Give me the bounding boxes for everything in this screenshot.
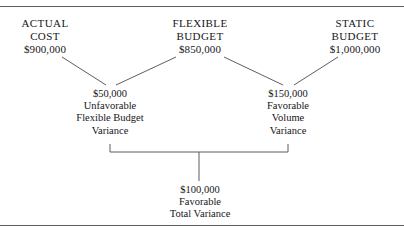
total-variance-bracket — [110, 144, 288, 152]
column-static-budget-amount: $1,000,000 — [330, 43, 381, 56]
variance-flexible-budget-direction: Unfavorable — [76, 100, 143, 112]
column-flexible-budget-title-line1: FLEXIBLE — [172, 17, 227, 30]
connector-static-budget-to-volume-variance — [294, 57, 338, 85]
variance-volume-amount: $150,000 — [267, 88, 309, 100]
variance-flexible-budget-amount: $50,000 — [76, 88, 143, 100]
variance-volume: $150,000 Favorable Volume Variance — [267, 88, 309, 137]
column-static-budget: STATIC BUDGET $1,000,000 — [330, 17, 381, 55]
column-static-budget-title-line2: BUDGET — [330, 30, 381, 43]
column-flexible-budget-amount: $850,000 — [172, 43, 227, 56]
variance-total-name: Total Variance — [170, 208, 231, 220]
top-horizontal-rule — [0, 6, 404, 7]
column-actual-cost-title-line2: COST — [21, 30, 68, 43]
connector-flexible-budget-to-flexible-budget-variance — [116, 57, 176, 85]
variance-total-amount: $100,000 — [170, 184, 231, 196]
variance-volume-direction: Favorable — [267, 100, 309, 112]
variance-flexible-budget-name-line1: Flexible Budget — [76, 112, 143, 124]
column-flexible-budget: FLEXIBLE BUDGET $850,000 — [172, 17, 227, 55]
variance-flexible-budget: $50,000 Unfavorable Flexible Budget Vari… — [76, 88, 143, 137]
variance-analysis-diagram: ACTUAL COST $900,000 FLEXIBLE BUDGET $85… — [0, 0, 404, 240]
column-actual-cost-amount: $900,000 — [21, 43, 68, 56]
column-actual-cost-title-line1: ACTUAL — [21, 17, 68, 30]
column-static-budget-title-line1: STATIC — [330, 17, 381, 30]
variance-volume-name-line1: Volume — [267, 112, 309, 124]
column-flexible-budget-title-line2: BUDGET — [172, 30, 227, 43]
connector-actual-cost-to-flexible-budget-variance — [62, 57, 106, 85]
column-actual-cost: ACTUAL COST $900,000 — [21, 17, 68, 55]
bottom-horizontal-rule — [0, 225, 404, 226]
variance-volume-name-line2: Variance — [267, 125, 309, 137]
variance-total-direction: Favorable — [170, 196, 231, 208]
connector-flexible-budget-to-volume-variance — [224, 57, 283, 85]
variance-total: $100,000 Favorable Total Variance — [170, 184, 231, 221]
variance-flexible-budget-name-line2: Variance — [76, 125, 143, 137]
